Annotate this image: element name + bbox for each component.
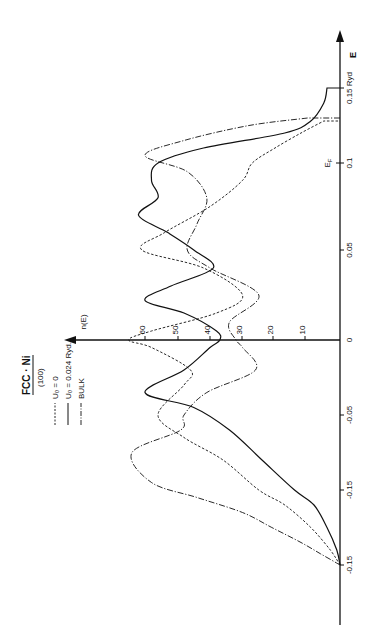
n-tick-label: 10 (298, 325, 307, 334)
e-tick-label: -0.15 (345, 480, 354, 499)
n-tick-label: 50 (171, 325, 180, 334)
legend: FCC · Ni (100) U₀ = 0 U₀ = 0.024 Ryd. BU… (21, 342, 86, 425)
n-tick-label: 30 (235, 325, 244, 334)
e-axis: E (336, 30, 358, 625)
svg-text:EF: EF (323, 158, 333, 167)
n-tick-label: 60 (138, 325, 147, 334)
legend-title: FCC · Ni (21, 355, 32, 395)
e-tick-label: -0.05 (345, 405, 354, 424)
legend-item-bulk: BULK (77, 377, 86, 425)
legend-subtitle: (100) (36, 368, 45, 387)
e-axis-label: E (348, 52, 358, 58)
svg-text:U₀ = 0: U₀ = 0 (51, 376, 60, 399)
curve-dash-dot (131, 118, 340, 565)
n-tick-label: 20 (266, 325, 275, 334)
e-tick-label: 0.1 (345, 157, 354, 169)
svg-text:BULK: BULK (77, 377, 86, 399)
curve-dashed (129, 121, 340, 565)
e-tick-label: -0.15 (345, 555, 354, 574)
n-axis-label: n(E) (79, 314, 88, 329)
dos-chart: E 0.15 Ryd 0.1 0.05 0 -0.05 -0.15 -0.15 … (0, 0, 380, 639)
legend-item-u0-zero: U₀ = 0 (51, 376, 60, 425)
n-ticks: 10 20 30 40 50 60 (138, 325, 307, 340)
e-tick-label: 0.05 (345, 242, 354, 258)
legend-item-u0-0024: U₀ = 0.024 Ryd. (64, 342, 73, 425)
svg-text:U₀ = 0.024 Ryd.: U₀ = 0.024 Ryd. (64, 342, 73, 399)
e-tick-label: 0 (345, 337, 354, 342)
e-tick-label: 0.15 Ryd (345, 72, 354, 104)
e-axis-arrow-icon (336, 30, 344, 42)
fermi-level-label: EF (323, 158, 333, 167)
e-ticks: 0.15 Ryd 0.1 0.05 0 -0.05 -0.15 -0.15 EF (323, 72, 354, 574)
